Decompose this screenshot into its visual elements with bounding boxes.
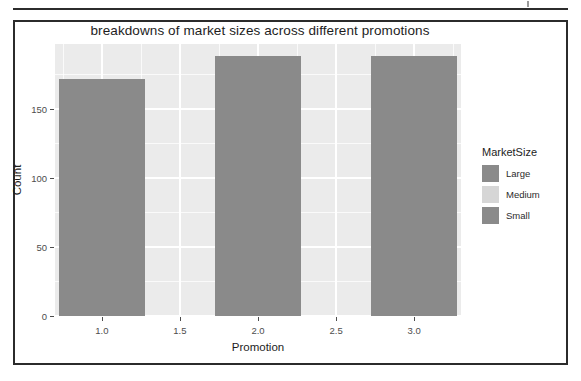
x-axis-title: Promotion [55, 341, 461, 353]
bar-segment-small[interactable] [371, 288, 457, 316]
legend-swatch-small-icon [482, 207, 499, 224]
legend: MarketSize Large Medium Small [482, 146, 568, 227]
page-top-rule [13, 8, 568, 10]
x-axis-tick-label: 2.5 [329, 325, 342, 336]
x-axis-tick-mark [102, 317, 103, 321]
x-axis-tick-mark [336, 317, 337, 321]
legend-title: MarketSize [482, 146, 568, 158]
gridline-vertical-major [179, 44, 181, 316]
y-axis-tick-label: 150 [31, 103, 47, 114]
legend-item-medium: Medium [482, 185, 568, 204]
legend-swatch-large-icon [482, 165, 499, 182]
y-axis-tick-mark [50, 316, 54, 317]
y-axis-tick-mark [50, 109, 54, 110]
gridline-vertical-major [335, 44, 337, 316]
legend-label-small: Small [506, 210, 530, 221]
scan-artifact-mark [527, 1, 529, 7]
y-axis-tick-mark [50, 178, 54, 179]
bar-stack[interactable] [371, 44, 457, 316]
x-axis-tick-mark [258, 317, 259, 321]
y-axis-title: Count [11, 165, 23, 196]
bar-segment-large[interactable] [371, 56, 457, 288]
legend-item-small: Small [482, 206, 568, 225]
bar-stack[interactable] [215, 44, 301, 316]
bar-segment-large[interactable] [215, 56, 301, 316]
x-axis-tick-label: 2.0 [251, 325, 264, 336]
x-axis-tick-label: 1.5 [173, 325, 186, 336]
x-axis-tick-mark [414, 317, 415, 321]
legend-label-medium: Medium [506, 189, 540, 200]
legend-swatch-medium-icon [482, 186, 499, 203]
y-axis-tick-mark [50, 247, 54, 248]
y-axis-tick-label: 100 [31, 172, 47, 183]
bar-stack[interactable] [59, 44, 145, 316]
legend-item-large: Large [482, 164, 568, 183]
y-axis-tick-label: 50 [36, 241, 47, 252]
x-axis-tick-mark [180, 317, 181, 321]
plot-panel [55, 44, 461, 316]
x-axis-tick-label: 3.0 [408, 325, 421, 336]
bar-segment-large[interactable] [59, 79, 145, 289]
chart-title: breakdowns of market sizes across differ… [55, 23, 465, 38]
x-axis-tick-label: 1.0 [95, 325, 108, 336]
y-axis-tick-label: 0 [42, 311, 47, 322]
bar-segment-small[interactable] [59, 288, 145, 316]
legend-label-large: Large [506, 168, 530, 179]
